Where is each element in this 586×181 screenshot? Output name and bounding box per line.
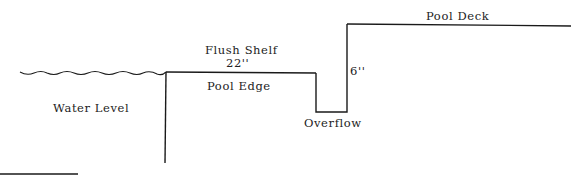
flush-shelf-label: Flush Shelf	[205, 45, 278, 57]
overflow-label: Overflow	[304, 118, 362, 130]
pool-deck-line	[347, 24, 571, 26]
pool-edge-label: Pool Edge	[207, 81, 271, 93]
cross-section-lines	[0, 0, 586, 181]
pool-deck-label: Pool Deck	[426, 11, 489, 23]
flush-shelf-line	[166, 72, 316, 73]
pool-overflow-cross-section: Water Level Flush Shelf 22'' Pool Edge O…	[0, 0, 586, 181]
water-level-label: Water Level	[53, 103, 129, 115]
overflow-depth-label: 6''	[350, 66, 365, 78]
pool-wall-line	[165, 72, 166, 163]
water-surface-wave	[20, 72, 166, 75]
overflow-trough-line	[316, 24, 347, 112]
shelf-width-label: 22''	[226, 58, 249, 70]
